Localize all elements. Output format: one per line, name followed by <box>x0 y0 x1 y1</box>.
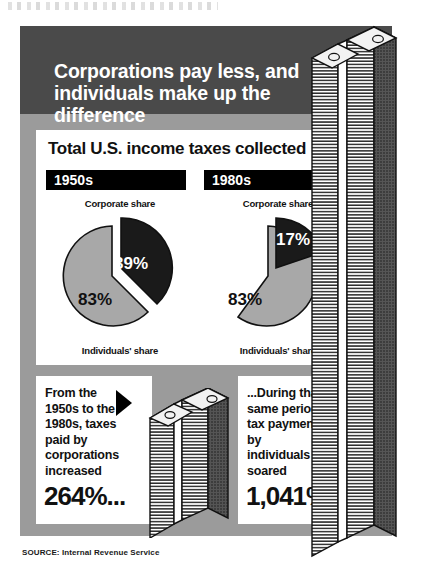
pie-value-individuals: 83% <box>78 290 112 310</box>
callout-figure: 264%... <box>44 481 125 512</box>
pie-value-corporate: 17% <box>276 230 310 250</box>
scan-artifact-text <box>8 2 218 10</box>
decade-label: 1950s <box>54 172 93 188</box>
decade-bar-1950s: 1950s <box>46 170 186 190</box>
callout-corporations: From the 1950s to the 1980s, taxes paid … <box>36 376 152 524</box>
individuals-share-label: Individuals' share <box>40 345 200 356</box>
panel-title: Total U.S. income taxes collected <box>48 139 306 159</box>
money-stack-tall <box>308 14 408 559</box>
pie-chart-1950s: Corporate share 83% 39% Individuals' sha… <box>40 198 200 358</box>
pie-value-individuals: 83% <box>228 290 262 310</box>
infographic-canvas: Corporations pay less, and individuals m… <box>0 0 428 580</box>
corporate-share-label: Corporate share <box>40 198 200 209</box>
money-stack-short <box>148 388 234 538</box>
callout-text: From the 1950s to the 1980s, taxes paid … <box>45 386 123 479</box>
pie-value-corporate: 39% <box>114 254 148 274</box>
decade-label: 1980s <box>212 172 251 188</box>
source-note: SOURCE: Internal Revenue Service <box>22 548 159 557</box>
